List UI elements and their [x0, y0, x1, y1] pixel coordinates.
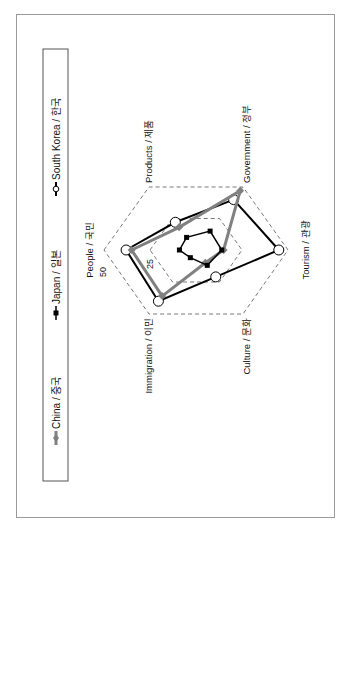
legend-label: Japan / 일본 [51, 250, 62, 304]
marker-square [188, 255, 193, 260]
axis-label: Immigration / 이민 [143, 318, 154, 394]
axis-label: Tourism / 관광 [300, 220, 311, 279]
legend: China / 중국Japan / 일본South Korea / 한국 [51, 98, 62, 445]
series [121, 187, 284, 306]
tick-label-25: 25 [145, 259, 155, 269]
marker-square [205, 263, 210, 268]
marker-circle [274, 245, 284, 255]
axis-label: People / 국민 [84, 222, 95, 278]
marker-circle [211, 272, 221, 282]
marker-square [184, 235, 189, 240]
radar-chart: China / 중국Japan / 일본South Korea / 한국 502… [0, 0, 343, 673]
tick-label-50: 50 [98, 267, 108, 277]
series-line [132, 191, 241, 296]
legend-label: China / 중국 [51, 377, 62, 429]
axis-label: Government / 정부 [241, 105, 252, 183]
legend-marker-square [54, 311, 59, 316]
legend-marker-diamond [53, 434, 59, 442]
axis-label: Products / 제품 [143, 120, 154, 183]
marker-square [219, 248, 224, 253]
legend-label: South Korea / 한국 [51, 98, 62, 180]
marker-square [177, 248, 182, 253]
axis-label: Culture / 문화 [241, 318, 252, 375]
marker-square [208, 229, 213, 234]
legend-marker-circle [53, 186, 59, 192]
